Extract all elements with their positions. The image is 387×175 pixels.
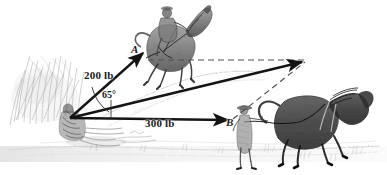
force-label-200lb: 200 lb — [84, 70, 114, 81]
point-label-b: B — [226, 117, 233, 128]
angle-label-65deg: 65° — [102, 90, 116, 100]
point-label-a: A — [131, 44, 138, 55]
force-label-300lb: 300 lb — [145, 118, 175, 129]
force-vector-illustration: 200 lb 300 lb 65° A B — [0, 0, 387, 175]
illustration-canvas — [0, 0, 387, 175]
